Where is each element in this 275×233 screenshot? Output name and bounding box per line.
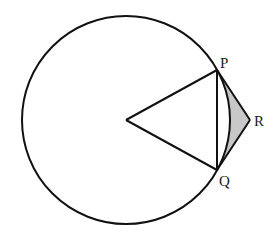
radius-oq — [126, 120, 217, 170]
label-p: P — [220, 55, 228, 71]
label-q: Q — [219, 173, 230, 189]
shaded-region — [217, 70, 250, 170]
geometry-diagram: P Q R — [0, 0, 275, 233]
radius-op — [126, 70, 217, 120]
label-r: R — [254, 113, 264, 129]
